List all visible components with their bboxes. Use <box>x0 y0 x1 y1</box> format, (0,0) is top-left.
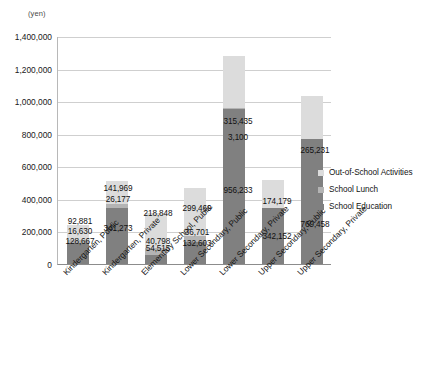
legend-label: School Lunch <box>329 185 378 194</box>
legend-item[interactable]: School Lunch <box>318 185 412 194</box>
y-axis-tick-label: 1,400,000 <box>0 32 52 42</box>
y-axis-tick-label: 1,200,000 <box>0 65 52 75</box>
y-axis-unit-caption: (yen) <box>28 9 46 18</box>
bar-segment[interactable] <box>106 204 128 208</box>
bar-value-label: 54,515 <box>146 245 170 253</box>
y-axis-tick-label: 0 <box>0 260 52 270</box>
bar-value-label: 40,798 <box>146 238 170 246</box>
legend-label: School Education <box>329 202 392 211</box>
bar-value-label: 341,273 <box>104 225 133 233</box>
legend-item[interactable]: School Education <box>318 202 412 211</box>
legend-swatch-icon <box>318 170 324 176</box>
bar-value-label: 299,469 <box>183 205 212 213</box>
plot-area: 128,66716,63092,881341,27326,177141,9695… <box>57 37 331 265</box>
bar-value-label: 769,458 <box>301 221 330 229</box>
bar-value-label: 3,100 <box>228 134 248 142</box>
y-axis-tick-label: 400,000 <box>0 195 52 205</box>
chart-legend: Out-of-School ActivitiesSchool LunchScho… <box>318 168 412 211</box>
bar-value-label: 342,152 <box>263 233 292 241</box>
bar-value-label: 36,701 <box>185 229 209 237</box>
bar-value-label: 174,179 <box>263 198 292 206</box>
bar-group[interactable] <box>262 36 284 264</box>
legend-item[interactable]: Out-of-School Activities <box>318 168 412 177</box>
bar-group[interactable] <box>223 36 245 264</box>
bar-value-label: 265,231 <box>301 147 330 155</box>
bar-value-label: 16,630 <box>68 228 92 236</box>
legend-swatch-icon <box>318 187 324 193</box>
legend-swatch-icon <box>318 204 324 210</box>
bar-segment[interactable] <box>301 96 323 139</box>
bars-layer: 128,66716,63092,881341,27326,177141,9695… <box>58 37 331 264</box>
bar-segment[interactable] <box>67 243 89 264</box>
bar-segment[interactable] <box>223 108 245 109</box>
bar-value-label: 128,667 <box>66 238 95 246</box>
bar-value-label: 315,435 <box>224 118 253 126</box>
bar-value-label: 956,233 <box>224 187 253 195</box>
bar-value-label: 132,603 <box>183 240 212 248</box>
y-axis-tick-label: 600,000 <box>0 162 52 172</box>
bar-value-label: 92,881 <box>68 218 92 226</box>
y-axis-tick-label: 1,000,000 <box>0 97 52 107</box>
bar-value-label: 26,177 <box>106 196 130 204</box>
bar-value-label: 141,969 <box>104 185 133 193</box>
bar-group[interactable] <box>145 36 167 264</box>
y-axis-tick-label: 200,000 <box>0 227 52 237</box>
bar-segment[interactable] <box>223 56 245 107</box>
bar-segment[interactable] <box>145 255 167 264</box>
bar-value-label: 218,848 <box>144 210 173 218</box>
legend-label: Out-of-School Activities <box>329 168 412 177</box>
stacked-bar-chart: (yen) 128,66716,63092,881341,27326,17714… <box>0 0 431 372</box>
y-axis-tick-label: 800,000 <box>0 130 52 140</box>
bar-segment[interactable] <box>106 208 128 264</box>
